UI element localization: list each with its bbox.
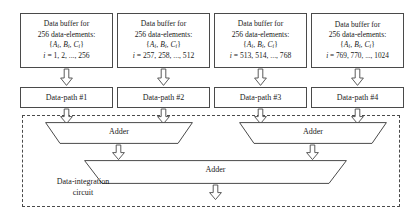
buffer-index-range: i = 513, 514, ..., 768 [230,51,291,61]
down-block-arrow-icon [60,69,73,86]
buffer-element-set: {Ai, Bi, Ci} [49,40,84,51]
data-integration-circuit-label: Data-integration circuit [31,177,135,199]
datapath-box-2[interactable]: Data-path #2 [117,87,210,108]
datapath-label: Data-path #2 [143,93,185,102]
diagram-canvas: Data buffer for 256 data-elements: {Ai, … [0,0,416,215]
adder-label: Adder [84,165,347,174]
buffer-index-range: i = 257, 258, ..., 512 [133,51,194,61]
buffer-index-range: i = 769, 770, ..., 1024 [326,51,389,61]
buffer-line-1: Data buffer for [238,19,283,29]
adder-right[interactable]: Adder [239,122,387,144]
datapath-box-4[interactable]: Data-path #4 [311,87,404,108]
adder-left[interactable]: Adder [45,122,193,144]
datapath-label: Data-path #1 [46,93,88,102]
datapath-label: Data-path #3 [240,93,282,102]
buffer-line-2: 256 data-elements: [135,30,193,40]
label-line-2: circuit [31,188,135,199]
buffer-line-1: Data buffer for [335,20,380,30]
down-block-arrow-icon [157,69,170,86]
label-line-1: Data-integration [31,177,135,188]
data-buffer-box-4[interactable]: Data buffer for 256 data-elements: {Ai, … [311,13,404,68]
buffer-index-range: i = 1, 2, ..., 256 [43,51,89,61]
buffer-element-set: {Ai, Bi, Ci} [340,40,375,51]
down-block-arrow-icon [306,145,319,160]
data-buffer-box-1[interactable]: Data buffer for 256 data-elements: {Ai, … [20,13,113,68]
buffer-element-set: {Ai, Bi, Ci} [243,40,278,51]
buffer-element-set: {Ai, Bi, Ci} [146,40,181,51]
down-block-arrow-icon [254,69,267,86]
buffer-line-1: Data buffer for [141,19,186,29]
datapath-box-3[interactable]: Data-path #3 [214,87,307,108]
buffer-line-2: 256 data-elements: [232,30,290,40]
buffer-line-2: 256 data-elements: [329,30,387,40]
down-block-arrow-icon [351,69,364,86]
adder-label: Adder [239,127,387,136]
datapath-box-1[interactable]: Data-path #1 [20,87,113,108]
adder-label: Adder [45,127,193,136]
data-buffer-box-2[interactable]: Data buffer for 256 data-elements: {Ai, … [117,13,210,68]
datapath-label: Data-path #4 [337,93,379,102]
buffer-line-2: 256 data-elements: [38,30,96,40]
buffer-line-1: Data buffer for [44,19,89,29]
data-buffer-box-3[interactable]: Data buffer for 256 data-elements: {Ai, … [214,13,307,68]
down-block-arrow-icon [209,185,222,200]
down-block-arrow-icon [112,145,125,160]
